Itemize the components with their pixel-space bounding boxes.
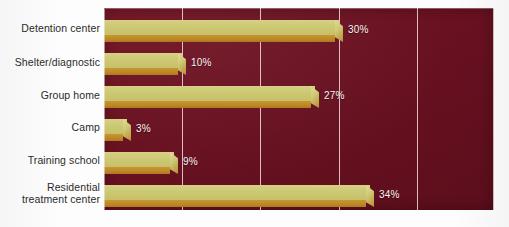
category-label-line: Detention center [21,22,100,34]
category-label-detention-center: Detention center [0,22,100,34]
bar-edge [104,167,170,174]
category-label-camp: Camp [0,121,100,133]
bar-value-label: 10% [191,57,212,68]
bar-edge [104,134,123,141]
category-label-line: Camp [72,121,100,133]
bar-edge [104,68,178,75]
bar-cap [170,152,178,174]
gridline-50 [493,8,494,210]
category-label-residential-treatment-center: Residential treatment center [0,181,100,205]
category-label-line: Training school [28,154,100,166]
bar-cap [178,53,186,75]
bar-cap [311,86,319,108]
bar-value-label: 3% [136,123,151,134]
category-label-line: Shelter/diagnostic [15,56,100,68]
bar-cap [123,119,131,141]
bar-edge [104,101,311,108]
category-label-line: treatment center [0,193,100,205]
bar-value-label: 9% [183,156,198,167]
bar-cap [335,20,343,42]
bar-value-label: 27% [324,90,345,101]
bar-face [104,53,182,68]
category-axis-labels: Detention center Shelter/diagnostic Grou… [0,0,100,227]
category-label-line: Group home [41,89,100,101]
bar-face [104,152,174,167]
bar-value-label: 34% [379,189,400,200]
category-label-line: Residential [0,181,100,193]
category-label-shelter-diagnostic: Shelter/diagnostic [0,56,100,68]
bar-edge [104,35,335,42]
gridline-40 [417,8,418,210]
category-label-group-home: Group home [0,89,100,101]
bar-cap [366,185,374,207]
plot-area: 30% 10% 27% 3% 9% [104,8,494,210]
bar-value-label: 30% [348,24,369,35]
category-label-training-school: Training school [0,154,100,166]
bar-edge [104,200,366,207]
bar-face [104,185,370,200]
bar-face [104,86,315,101]
bar-face [104,20,339,35]
bar-chart: Detention center Shelter/diagnostic Grou… [0,0,509,227]
